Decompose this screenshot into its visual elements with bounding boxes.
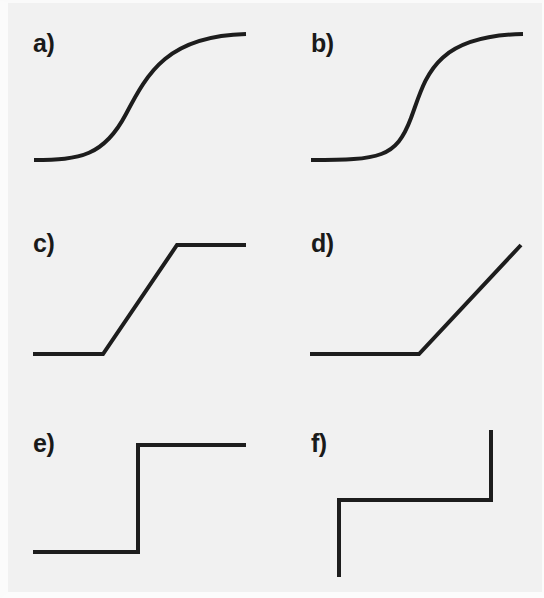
panel-d-label: d)	[311, 229, 334, 257]
panel-a: a)	[33, 29, 246, 160]
figure-container: a) b) c) d) e) f)	[0, 0, 544, 598]
panel-a-curve	[34, 34, 246, 160]
panel-f-label: f)	[311, 429, 327, 457]
activation-functions-figure: a) b) c) d) e) f)	[0, 0, 544, 598]
panel-e-curve	[33, 445, 246, 552]
panel-f: f)	[311, 429, 491, 577]
panel-e-label: e)	[33, 429, 54, 457]
panel-b-curve	[311, 34, 523, 160]
panel-c: c)	[33, 229, 246, 354]
panel-d: d)	[310, 229, 521, 354]
panel-a-label: a)	[33, 29, 54, 57]
panel-b: b)	[311, 29, 523, 160]
panel-f-curve	[339, 430, 491, 577]
panel-c-label: c)	[33, 229, 54, 257]
panel-e: e)	[33, 429, 246, 552]
panel-b-label: b)	[311, 29, 334, 57]
panel-d-curve	[310, 245, 521, 354]
panel-c-curve	[33, 245, 246, 354]
